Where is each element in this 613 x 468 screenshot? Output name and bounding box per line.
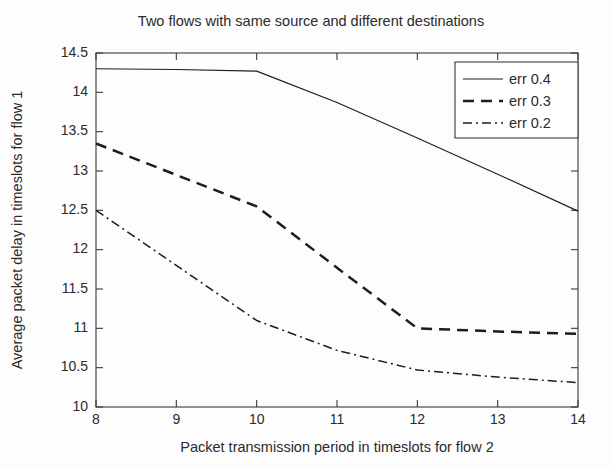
- y-tick-label: 11.5: [62, 280, 88, 296]
- y-tick-label: 14: [72, 83, 88, 99]
- legend: err 0.4err 0.3err 0.2: [455, 62, 578, 138]
- y-tick-label: 12: [72, 240, 88, 256]
- y-tick-label: 11: [73, 319, 88, 335]
- x-tick-label: 8: [92, 411, 100, 427]
- x-tick-label: 12: [410, 411, 426, 427]
- y-axis-label: Average packet delay in timeslots for fl…: [9, 91, 25, 370]
- y-tick-label: 13.5: [61, 122, 88, 138]
- x-tick-label: 13: [490, 411, 506, 427]
- legend-label-1: err 0.4: [509, 71, 551, 87]
- series-line-err-0-2: [96, 210, 578, 382]
- legend-label-2: err 0.3: [509, 93, 551, 109]
- x-tick-label: 10: [249, 411, 265, 427]
- y-tick-label: 14.5: [61, 44, 88, 60]
- chart-title: Two flows with same source and different…: [138, 13, 484, 29]
- y-tick-label: 13: [72, 162, 88, 178]
- x-tick-label: 9: [172, 411, 180, 427]
- y-tick-label: 10: [72, 398, 88, 414]
- x-axis-label: Packet transmission period in timeslots …: [180, 439, 494, 455]
- y-tick-label: 12.5: [61, 201, 88, 217]
- line-chart: Two flows with same source and different…: [0, 0, 613, 468]
- y-tick-label: 10.5: [61, 358, 88, 374]
- series-line-err-0-3: [96, 143, 578, 333]
- legend-label-3: err 0.2: [509, 115, 551, 131]
- x-tick-label: 14: [570, 411, 586, 427]
- chart-page: Two flows with same source and different…: [0, 0, 613, 468]
- x-tick-label: 11: [330, 411, 345, 427]
